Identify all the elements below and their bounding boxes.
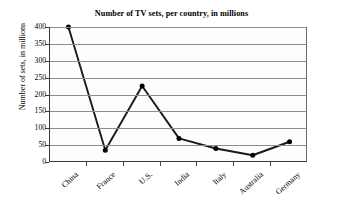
y-tick-label: 0 xyxy=(24,158,46,166)
y-tick-label: 300 xyxy=(24,57,46,65)
y-tick-label: 100 xyxy=(24,124,46,132)
gridline xyxy=(50,128,306,129)
y-tick-mark xyxy=(45,95,49,96)
y-tick-mark xyxy=(45,128,49,129)
y-tick-label: 350 xyxy=(24,40,46,48)
y-axis-tick-labels: 050100150200250300350400 xyxy=(24,25,46,162)
y-tick-mark xyxy=(45,162,49,163)
y-tick-label: 150 xyxy=(24,108,46,116)
gridline xyxy=(50,111,306,112)
x-tick-label: India xyxy=(173,170,191,188)
x-tick-label: China xyxy=(60,170,80,189)
x-tick-mark xyxy=(123,162,124,166)
y-tick-mark xyxy=(45,44,49,45)
x-tick-mark xyxy=(233,162,234,166)
chart-title: Number of TV sets, per country, in milli… xyxy=(0,9,343,18)
data-point-marker: Germany: 60 xyxy=(287,139,292,144)
x-tick-mark xyxy=(270,162,271,166)
gridline xyxy=(50,61,306,62)
x-tick-mark xyxy=(86,162,87,166)
y-tick-mark xyxy=(45,78,49,79)
chart-figure: Number of TV sets, per country, in milli… xyxy=(0,0,343,209)
x-tick-mark xyxy=(196,162,197,166)
x-tick-label: France xyxy=(95,170,117,191)
y-tick-label: 400 xyxy=(24,23,46,31)
gridline xyxy=(50,78,306,79)
gridline xyxy=(50,27,306,28)
gridline xyxy=(50,95,306,96)
x-tick-label: Italy xyxy=(211,170,228,187)
data-point-marker: Italy: 40 xyxy=(213,146,218,151)
y-tick-mark xyxy=(45,145,49,146)
data-point-marker: France: 35 xyxy=(103,148,108,153)
x-tick-label: U.S. xyxy=(138,170,155,186)
y-tick-label: 50 xyxy=(24,141,46,149)
x-tick-label: Germany xyxy=(273,170,301,197)
plot-area: China: 400France: 35U.S.: 225India: 70It… xyxy=(49,27,307,162)
y-tick-mark xyxy=(45,111,49,112)
y-tick-label: 250 xyxy=(24,74,46,82)
data-point-marker: Australia: 20 xyxy=(250,153,255,158)
x-tick-mark xyxy=(160,162,161,166)
gridline xyxy=(50,44,306,45)
data-point-marker: U.S.: 225 xyxy=(140,84,145,89)
y-tick-label: 200 xyxy=(24,91,46,99)
x-tick-label: Australia xyxy=(237,170,265,196)
y-tick-mark xyxy=(45,27,49,28)
data-point-marker: India: 70 xyxy=(177,136,182,141)
gridline xyxy=(50,145,306,146)
y-tick-mark xyxy=(45,61,49,62)
